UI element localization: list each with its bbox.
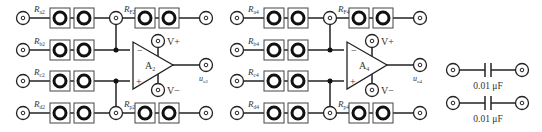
input-terminal-c[interactable] [17,75,30,88]
output-terminal[interactable] [200,59,213,72]
ground-node-terminal[interactable] [110,107,123,120]
junction-dot [114,79,119,84]
noninverting-input-sign: + [350,76,356,87]
vplus-label: V+ [167,36,180,47]
junction-dot [114,48,119,53]
capacitor-value: 0.01 μF [473,81,502,91]
input-terminal-b[interactable] [231,44,244,57]
vplus-label: V+ [381,36,394,47]
ground-node-terminal[interactable] [324,107,337,120]
noninverting-input-sign: + [136,76,142,87]
circuit-diagram: − + A2 V+ V− uo2 Ra2 Rb2 Rc2 Rd2 RF2 Rp2 [0,0,542,132]
feedback-node-terminal[interactable] [324,12,337,25]
resistor-label-d: Rd4 [247,99,259,110]
junction-dot [328,48,333,53]
input-terminal-c[interactable] [231,75,244,88]
resistor-label-feedback: RF4 [337,4,350,15]
resistor-label-a: Ra4 [247,4,259,15]
capacitor-2: 0.01 μF [447,96,529,124]
input-terminal-a[interactable] [231,12,244,25]
circuit-a4: − + A4 V+ V− uo4 Ra4 Rb4 Rc4 Rd4 RF4 Rp4 [231,4,427,123]
feedback-out-terminal[interactable] [414,12,427,25]
vminus-terminal[interactable] [152,84,165,97]
input-terminal-a[interactable] [17,12,30,25]
resistor-label-a: Ra2 [33,4,45,15]
capacitor-terminal-right[interactable] [516,64,529,77]
junction-dot [328,79,333,84]
feedback-node-terminal[interactable] [110,12,123,25]
capacitor-terminal-left[interactable] [447,97,460,110]
inverting-input-sign: − [351,45,357,56]
resistor-label-ground: Rp2 [123,99,135,110]
inverting-input-sign: − [137,45,143,56]
resistor-label-b: Rb2 [33,36,45,47]
vplus-terminal[interactable] [366,35,379,48]
resistor-label-ground: Rp4 [337,99,349,110]
capacitor-terminal-left[interactable] [447,64,460,77]
ground-out-terminal[interactable] [414,107,427,120]
vminus-label: V− [381,85,394,96]
resistor-label-d: Rd2 [33,99,45,110]
circuit-a2: − + A2 V+ V− uo2 Ra2 Rb2 Rc2 Rd2 RF2 Rp2 [17,4,213,123]
input-terminal-b[interactable] [17,44,30,57]
output-label: uo2 [199,74,209,84]
output-terminal[interactable] [414,59,427,72]
ground-out-terminal[interactable] [200,107,213,120]
vplus-terminal[interactable] [152,35,165,48]
capacitor-terminal-right[interactable] [516,97,529,110]
feedback-out-terminal[interactable] [200,12,213,25]
resistor-label-c: Rc4 [247,67,259,78]
resistor-label-feedback: RF2 [123,4,136,15]
capacitor-1: 0.01 μF [447,63,529,91]
input-terminal-d[interactable] [231,107,244,120]
vminus-label: V− [167,85,180,96]
resistor-label-c: Rc2 [33,67,45,78]
capacitor-value: 0.01 μF [473,114,502,124]
resistor-label-b: Rb4 [247,36,259,47]
output-label: uo4 [413,74,423,84]
vminus-terminal[interactable] [366,84,379,97]
input-terminal-d[interactable] [17,107,30,120]
